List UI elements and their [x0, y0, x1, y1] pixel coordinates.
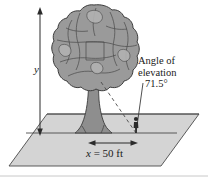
height-label: y [34, 64, 39, 76]
angle-of-elevation-label: Angle of elevation [138, 55, 176, 78]
distance-label: x = 50 ft [86, 148, 123, 160]
angle-label-line-1: Angle of [138, 55, 176, 66]
angle-value-label: 71.5° [145, 78, 168, 89]
angle-label-line-2: elevation [138, 67, 176, 78]
distance-value: = 50 ft [91, 147, 123, 159]
angle-of-elevation-figure: y Angle of elevation 71.5° x = 50 ft [0, 0, 208, 180]
